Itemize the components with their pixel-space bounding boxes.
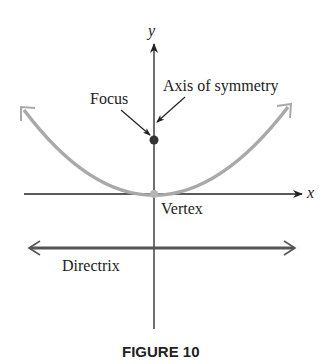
figure-caption: FIGURE 10 bbox=[122, 344, 200, 359]
axis-pointer-arrow bbox=[157, 97, 185, 122]
focus-label: Focus bbox=[90, 91, 128, 107]
focus-pointer-arrow bbox=[121, 110, 150, 135]
directrix-line bbox=[29, 241, 295, 255]
vertex-label: Vertex bbox=[161, 201, 203, 217]
vertex-point bbox=[150, 190, 158, 198]
axis-of-symmetry-label: Axis of symmetry bbox=[163, 78, 279, 94]
focus-point bbox=[150, 136, 159, 145]
parabola-figure: y x Focus Axis of symmetry Vertex Direct… bbox=[0, 0, 336, 364]
directrix-label: Directrix bbox=[62, 258, 120, 274]
y-axis-label: y bbox=[148, 23, 155, 39]
parabola-diagram bbox=[0, 0, 336, 364]
parabola-curve bbox=[21, 104, 291, 195]
x-axis-label: x bbox=[307, 185, 314, 201]
